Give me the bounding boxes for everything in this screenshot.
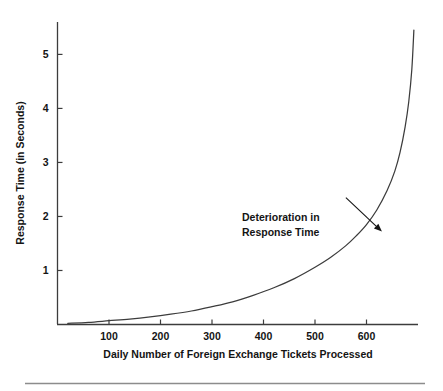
y-axis-tick-label: 4 xyxy=(43,102,49,114)
deterioration-callout-line1: Deterioration in xyxy=(242,211,320,223)
y-axis-tick-label: 1 xyxy=(43,264,49,276)
chart-background xyxy=(0,0,443,391)
response-time-chart: 12345 100200300400500600 Response Time (… xyxy=(0,0,443,391)
x-axis-tick-label: 500 xyxy=(306,330,324,342)
deterioration-callout-line2: Response Time xyxy=(242,226,320,238)
x-axis-tick-label: 600 xyxy=(358,330,376,342)
x-axis-title: Daily Number of Foreign Exchange Tickets… xyxy=(103,348,372,360)
figure-container: 12345 100200300400500600 Response Time (… xyxy=(0,0,443,391)
x-axis-tick-label: 400 xyxy=(255,330,273,342)
x-axis-tick-label: 300 xyxy=(203,330,221,342)
y-axis-tick-label: 2 xyxy=(43,210,49,222)
x-axis-tick-label: 200 xyxy=(152,330,170,342)
y-axis-title: Response Time (in Seconds) xyxy=(14,101,26,244)
y-axis-tick-label: 5 xyxy=(43,48,49,60)
y-axis-tick-label: 3 xyxy=(43,156,49,168)
x-axis-tick-label: 100 xyxy=(100,330,118,342)
